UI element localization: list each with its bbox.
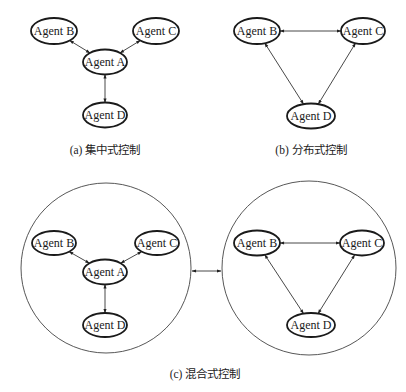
node-agent-c: Agent C	[135, 231, 179, 255]
node-agent-c: Agent C	[133, 18, 179, 44]
diagram-canvas: Agent BAgent CAgent AAgent DAgent BAgent…	[0, 0, 406, 392]
node-label: Agent C	[136, 24, 176, 38]
node-label: Agent D	[291, 318, 332, 332]
node-agent-a: Agent A	[83, 260, 127, 285]
node-agent-b: Agent B	[31, 18, 77, 44]
node-agent-d: Agent D	[287, 313, 335, 337]
edge-c-d-arrow	[318, 255, 355, 314]
agent-control-diagram: Agent BAgent CAgent AAgent DAgent BAgent…	[0, 0, 406, 392]
panel-caption-a: (a) 集中式控制	[70, 143, 141, 157]
node-label: Agent C	[342, 236, 382, 250]
node-agent-c: Agent C	[340, 231, 384, 256]
node-label: Agent D	[291, 109, 332, 123]
node-agent-d: Agent D	[83, 103, 127, 128]
edge-b-a-arrow	[70, 41, 90, 53]
node-label: Agent B	[237, 24, 277, 38]
node-agent-b: Agent B	[234, 18, 280, 44]
node-agent-b: Agent B	[234, 231, 280, 256]
edge-c-a-arrow	[120, 41, 140, 53]
node-agent-d: Agent D	[287, 104, 335, 129]
node-agent-d: Agent D	[83, 313, 127, 337]
node-label: Agent D	[85, 108, 126, 122]
node-label: Agent C	[137, 236, 177, 250]
node-label: Agent A	[85, 265, 126, 279]
panel-caption-c: (c) 混合式控制	[170, 367, 241, 381]
edge-c-d-arrow	[318, 43, 355, 104]
node-agent-b: Agent B	[32, 231, 76, 255]
edge-b-d-arrow	[265, 255, 304, 314]
node-label: Agent B	[34, 24, 74, 38]
node-agent-a: Agent A	[83, 50, 127, 75]
nodes-layer: Agent BAgent CAgent AAgent DAgent BAgent…	[31, 18, 385, 337]
node-agent-c: Agent C	[341, 18, 385, 44]
edge-b-d-arrow	[265, 43, 304, 104]
node-label: Agent B	[34, 236, 74, 250]
group-circles-layer	[21, 181, 396, 355]
edge-c-a-arrow	[121, 252, 142, 264]
node-label: Agent C	[343, 24, 383, 38]
panel-caption-b: (b) 分布式控制	[275, 143, 346, 157]
node-label: Agent D	[85, 318, 126, 332]
node-label: Agent A	[85, 55, 126, 69]
edge-b-a-arrow	[69, 252, 89, 264]
node-label: Agent B	[237, 236, 277, 250]
